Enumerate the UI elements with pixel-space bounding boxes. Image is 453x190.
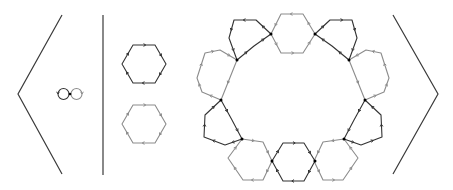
relator-hexagon-dark <box>122 44 166 85</box>
junction-dot <box>348 59 351 62</box>
generator-a-loop <box>57 89 69 100</box>
relator-hexagon-gray <box>122 104 166 145</box>
presentation-complex-diagram <box>0 0 453 190</box>
right-angle-bracket <box>393 15 438 174</box>
ring-cell-dark-bottom-outline <box>272 143 315 181</box>
ring-cell-dark-top-left <box>229 19 271 60</box>
ring-cell-dark-right <box>344 100 383 145</box>
ring-cell-dark-left-outline <box>204 100 242 145</box>
ring-cell-dark-left <box>203 100 242 145</box>
diagram-canvas <box>0 0 453 190</box>
generator-b-loop-circle <box>71 89 82 100</box>
junction-dot <box>343 138 346 141</box>
ring-cell-gray-bottom-left <box>228 139 272 181</box>
ring-cell-gray-right <box>349 50 389 100</box>
junction-dot <box>271 160 274 163</box>
junction-dot <box>241 138 244 141</box>
ring-cell-gray-top <box>271 13 315 55</box>
ring-cell-gray-bottom-right <box>314 139 358 181</box>
ring-cell-gray-right-outline <box>349 50 389 100</box>
generators-figure-eight <box>57 89 84 100</box>
ring-cell-gray-left-outline <box>197 50 237 100</box>
junction-dot <box>236 59 239 62</box>
ring-cell-dark-top-right <box>315 19 357 60</box>
generator-a-loop-circle <box>58 89 69 100</box>
relator-hexagons <box>122 44 166 145</box>
left-angle-bracket <box>18 15 62 174</box>
ring-cell-dark-bottom <box>272 142 315 183</box>
ring-cell-gray-left <box>197 50 237 100</box>
junction-dot <box>364 99 367 102</box>
junction-dot <box>220 99 223 102</box>
generator-b-loop <box>71 89 83 100</box>
basepoint-dot <box>69 93 72 96</box>
junction-dot <box>314 160 317 163</box>
hexagon-ring-diagram <box>197 13 389 183</box>
ring-cell-gray-bottom-left-outline <box>228 139 272 180</box>
angle-brackets <box>18 15 438 174</box>
relator-hexagon-dark-outline <box>122 45 166 83</box>
junction-dot <box>270 33 273 36</box>
junction-dot <box>314 33 317 36</box>
relator-hexagon-gray-outline <box>122 105 166 143</box>
ring-cell-dark-right-outline <box>344 100 382 145</box>
ring-cell-gray-bottom-right-outline <box>314 139 358 180</box>
ring-cell-gray-top-outline <box>271 14 315 53</box>
